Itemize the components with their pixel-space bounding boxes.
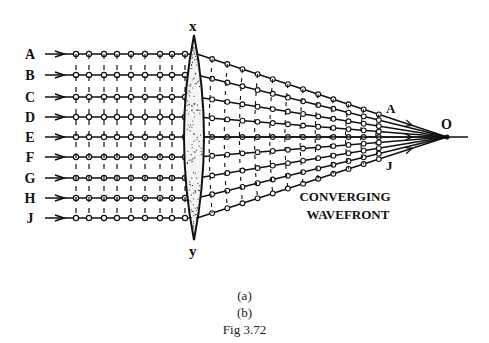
lens-top-label: x xyxy=(189,18,197,34)
ray-label: F xyxy=(26,150,35,165)
caption-sub-a: (a) xyxy=(0,288,489,304)
ray-label: H xyxy=(25,191,36,206)
ray-label: D xyxy=(25,110,35,125)
ray-label: E xyxy=(25,130,34,145)
convex-lens xyxy=(184,35,204,240)
lens-bottom-label: y xyxy=(189,243,197,259)
ray-label: A xyxy=(25,47,36,62)
focus-label: O xyxy=(441,117,452,132)
plane-wavefronts xyxy=(76,54,185,218)
lower-ray-label: J xyxy=(386,158,393,173)
figure-caption: Fig 3.72 xyxy=(0,322,489,338)
annotation-converging: CONVERGING xyxy=(299,189,390,204)
upper-ray-label: A xyxy=(386,101,396,116)
ray-label: J xyxy=(27,211,34,226)
caption-sub-b: (b) xyxy=(0,305,489,321)
ray-label: G xyxy=(25,171,36,186)
ray-label: B xyxy=(25,68,34,83)
ray-label: C xyxy=(25,90,35,105)
annotation-wavefront: WAVEFRONT xyxy=(307,207,390,222)
ray-labels: ABCDEFGHJ xyxy=(25,47,36,226)
incident-rays xyxy=(45,51,197,221)
